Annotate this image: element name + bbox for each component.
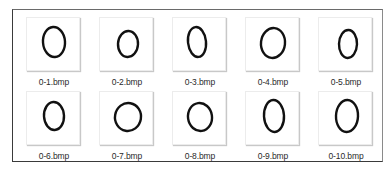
file-item[interactable]: 0-4.bmp — [243, 17, 305, 89]
image-thumbnail[interactable] — [318, 91, 372, 145]
file-item[interactable]: 0-9.bmp — [243, 91, 305, 163]
digit-zero-icon — [173, 92, 227, 146]
file-name-label: 0-8.bmp — [164, 151, 236, 161]
digit-zero-icon — [100, 92, 154, 146]
digit-zero-icon — [246, 92, 300, 146]
file-name-label: 0-1.bmp — [18, 77, 90, 87]
image-thumbnail[interactable] — [172, 91, 226, 145]
file-item[interactable]: 0-5.bmp — [316, 17, 378, 89]
file-name-label: 0-4.bmp — [237, 77, 309, 87]
file-item[interactable]: 0-7.bmp — [97, 91, 159, 163]
image-thumbnail[interactable] — [99, 91, 153, 145]
image-thumbnail[interactable] — [245, 91, 299, 145]
digit-zero-icon — [173, 18, 227, 72]
digit-zero-icon — [319, 92, 373, 146]
file-item[interactable]: 0-10.bmp — [316, 91, 378, 163]
digit-zero-icon — [27, 18, 81, 72]
file-item[interactable]: 0-3.bmp — [170, 17, 232, 89]
file-name-label: 0-7.bmp — [91, 151, 163, 161]
file-name-label: 0-5.bmp — [310, 77, 382, 87]
file-name-label: 0-2.bmp — [91, 77, 163, 87]
digit-zero-icon — [100, 18, 154, 72]
image-thumbnail[interactable] — [26, 91, 80, 145]
digit-zero-icon — [27, 92, 81, 146]
image-thumbnail[interactable] — [318, 17, 372, 71]
image-thumbnail[interactable] — [172, 17, 226, 71]
file-name-label: 0-6.bmp — [18, 151, 90, 161]
file-name-label: 0-3.bmp — [164, 77, 236, 87]
image-thumbnail[interactable] — [26, 17, 80, 71]
file-item[interactable]: 0-6.bmp — [24, 91, 86, 163]
image-thumbnail[interactable] — [245, 17, 299, 71]
digit-zero-icon — [319, 18, 373, 72]
file-name-label: 0-10.bmp — [310, 151, 382, 161]
file-item[interactable]: 0-1.bmp — [24, 17, 86, 89]
file-name-label: 0-9.bmp — [237, 151, 309, 161]
image-thumbnail[interactable] — [99, 17, 153, 71]
digit-zero-icon — [246, 18, 300, 72]
file-item[interactable]: 0-2.bmp — [97, 17, 159, 89]
file-item[interactable]: 0-8.bmp — [170, 91, 232, 163]
